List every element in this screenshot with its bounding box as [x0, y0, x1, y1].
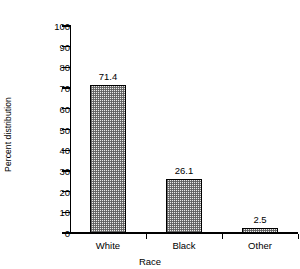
x-axis-category-label: Other — [248, 240, 272, 251]
y-axis-tick-group: 0102030405060708090100 — [0, 0, 70, 269]
y-axis-tick-label: 80 — [14, 62, 70, 73]
x-axis-title: Race — [0, 256, 300, 267]
y-axis-tick-label: 90 — [14, 41, 70, 52]
y-axis-tick-label: 70 — [14, 83, 70, 94]
y-axis-tick-label: 100 — [14, 21, 70, 32]
bar — [90, 85, 126, 233]
y-axis-tick-label: 20 — [14, 186, 70, 197]
bar-value-label: 71.4 — [99, 71, 118, 82]
bar-value-label: 2.5 — [253, 214, 266, 225]
y-axis-tick-label: 0 — [14, 228, 70, 239]
y-axis-tick-label: 60 — [14, 103, 70, 114]
x-axis-category-label: White — [96, 240, 120, 251]
chart-figure: Percent distribution 0102030405060708090… — [0, 0, 300, 269]
x-axis-tick — [298, 234, 299, 239]
bar — [166, 179, 202, 233]
y-axis-tick-label: 30 — [14, 165, 70, 176]
bar — [242, 228, 278, 233]
y-axis-tick-label: 40 — [14, 145, 70, 156]
y-axis-tick-label: 50 — [14, 124, 70, 135]
y-axis-tick-label: 10 — [14, 207, 70, 218]
x-axis-tick — [146, 234, 147, 239]
x-axis-tick — [222, 234, 223, 239]
y-axis-line — [70, 25, 71, 234]
bar-value-label: 26.1 — [175, 165, 194, 176]
x-axis-category-label: Black — [172, 240, 195, 251]
